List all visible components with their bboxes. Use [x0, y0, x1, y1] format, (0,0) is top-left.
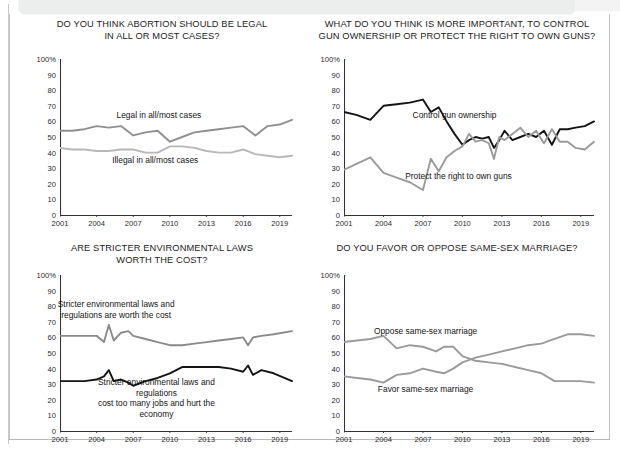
y-axis-tick-label: 10 [22, 411, 56, 420]
y-axis-tick-label: 40 [22, 148, 56, 157]
y-axis-tick-label: 70 [22, 317, 56, 326]
scan-artifact-banner-right [575, 0, 620, 11]
chart-title-abortion: DO YOU THINK ABORTION SHOULD BE LEGAL IN… [22, 19, 302, 42]
y-axis-tick-label: 80 [306, 302, 340, 311]
y-axis-tick-label: 10 [306, 411, 340, 420]
series-annotation-label: Illegal in all/most cases [112, 155, 198, 166]
y-axis-tick-label: 20 [306, 395, 340, 404]
y-axis-tick-label: 20 [22, 395, 56, 404]
x-axis-tick-label: 2010 [454, 435, 471, 444]
axis-lines [61, 59, 293, 216]
x-axis-tick-label: 2004 [375, 219, 392, 228]
screenshot-page: DO YOU THINK ABORTION SHOULD BE LEGAL IN… [0, 0, 620, 451]
y-axis-tick-label: 80 [306, 86, 340, 95]
chart-title-environment: ARE STRICTER ENVIRONMENTAL LAWS WORTH TH… [22, 243, 302, 266]
x-axis-tick-label: 2001 [336, 219, 353, 228]
y-axis-tick-label: 90 [306, 286, 340, 295]
y-axis-tick-label: 100% [306, 55, 340, 64]
chart-samesex: DO YOU FAVOR OR OPPOSE SAME-SEX MARRIAGE… [306, 243, 608, 443]
y-axis-tick-label: 60 [22, 117, 56, 126]
x-axis-tick-label: 2013 [493, 435, 510, 444]
y-axis-tick-label: 60 [306, 117, 340, 126]
x-axis-tick-label: 2016 [235, 435, 252, 444]
plot-area-samesex: 100%908070605040302010020012004200720102… [344, 275, 594, 431]
y-axis-tick-label: 90 [306, 70, 340, 79]
series-annotation-label: Legal in all/most cases [117, 110, 202, 121]
y-axis-tick-label: 30 [306, 380, 340, 389]
y-axis-tick-label: 20 [306, 179, 340, 188]
x-axis-tick-label: 2016 [533, 219, 550, 228]
x-axis-tick-label: 2007 [414, 219, 431, 228]
y-axis-tick-label: 20 [22, 179, 56, 188]
y-axis-tick-label: 90 [22, 286, 56, 295]
chart-canvas [344, 275, 596, 433]
y-axis-tick-label: 10 [22, 195, 56, 204]
x-axis-tick-label: 2004 [88, 219, 105, 228]
y-axis-tick-label: 40 [306, 364, 340, 373]
chart-environment: ARE STRICTER ENVIRONMENTAL LAWS WORTH TH… [22, 243, 302, 443]
y-axis-tick-label: 90 [22, 70, 56, 79]
plot-area-abortion: 100%908070605040302010020012004200720102… [60, 59, 292, 215]
x-axis-tick-label: 2001 [336, 435, 353, 444]
plot-area-environment: 100%908070605040302010020012004200720102… [60, 275, 292, 431]
series-annotation-label: Stricter environmental laws and regulati… [89, 377, 225, 419]
axis-lines [345, 275, 595, 432]
x-axis-tick-label: 2004 [375, 435, 392, 444]
series-annotation-label: Oppose same-sex marriage [374, 326, 477, 337]
series-line [60, 120, 292, 142]
x-axis-tick-label: 2007 [125, 435, 142, 444]
plot-area-guns: 100%908070605040302010020012004200720102… [344, 59, 594, 215]
x-axis-tick-label: 2019 [572, 219, 589, 228]
scan-artifact-banner [18, 0, 576, 15]
y-axis-tick-label: 60 [306, 333, 340, 342]
x-axis-tick-label: 2001 [52, 435, 69, 444]
y-axis-tick-label: 100% [22, 271, 56, 280]
series-annotation-label: Favor same-sex marriage [378, 384, 473, 395]
x-axis-tick-label: 2013 [198, 219, 215, 228]
x-axis-tick-label: 2001 [52, 219, 69, 228]
y-axis-tick-label: 70 [306, 317, 340, 326]
chart-canvas [60, 59, 294, 217]
chart-title-guns: WHAT DO YOU THINK IS MORE IMPORTANT, TO … [306, 19, 608, 42]
x-axis-tick-label: 2007 [125, 219, 142, 228]
x-axis-tick-label: 2019 [271, 435, 288, 444]
x-axis-tick-label: 2013 [493, 219, 510, 228]
y-axis-tick-label: 30 [22, 164, 56, 173]
x-axis-tick-label: 2010 [161, 219, 178, 228]
chart-canvas [344, 59, 596, 217]
chart-abortion: DO YOU THINK ABORTION SHOULD BE LEGAL IN… [22, 19, 302, 231]
y-axis-tick-label: 30 [22, 380, 56, 389]
x-axis-tick-label: 2016 [235, 219, 252, 228]
y-axis-tick-label: 70 [306, 101, 340, 110]
x-axis-tick-label: 2007 [414, 435, 431, 444]
chart-guns: WHAT DO YOU THINK IS MORE IMPORTANT, TO … [306, 19, 608, 231]
series-annotation-label: Stricter environmental laws and regulati… [58, 299, 175, 320]
y-axis-tick-label: 100% [22, 55, 56, 64]
y-axis-tick-label: 40 [22, 364, 56, 373]
chart-title-samesex: DO YOU FAVOR OR OPPOSE SAME-SEX MARRIAGE… [306, 243, 608, 255]
series-annotation-label: Control gun ownership [413, 110, 497, 121]
y-axis-tick-label: 40 [306, 148, 340, 157]
y-axis-tick-label: 100% [306, 271, 340, 280]
y-axis-tick-label: 70 [22, 101, 56, 110]
series-annotation-label: Protect the right to own guns [405, 171, 512, 182]
x-axis-tick-label: 2013 [198, 435, 215, 444]
y-axis-tick-label: 80 [22, 86, 56, 95]
x-axis-tick-label: 2010 [161, 435, 178, 444]
x-axis-tick-label: 2010 [454, 219, 471, 228]
x-axis-tick-label: 2004 [88, 435, 105, 444]
y-axis-tick-label: 80 [22, 302, 56, 311]
y-axis-tick-label: 10 [306, 195, 340, 204]
x-axis-tick-label: 2016 [533, 435, 550, 444]
x-axis-tick-label: 2019 [572, 435, 589, 444]
series-line [60, 325, 292, 345]
x-axis-tick-label: 2019 [271, 219, 288, 228]
series-line [344, 100, 594, 148]
y-axis-tick-label: 50 [306, 349, 340, 358]
y-axis-tick-label: 60 [22, 333, 56, 342]
y-axis-tick-label: 50 [306, 133, 340, 142]
y-axis-tick-label: 50 [22, 133, 56, 142]
y-axis-tick-label: 30 [306, 164, 340, 173]
y-axis-tick-label: 50 [22, 349, 56, 358]
